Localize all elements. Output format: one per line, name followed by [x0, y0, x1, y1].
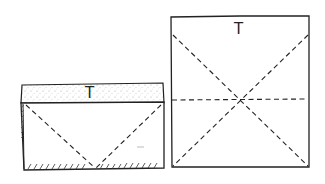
left-figure-label: T	[85, 86, 94, 101]
left-body	[21, 102, 164, 170]
right-figure	[171, 16, 309, 167]
right-figure-label: T	[234, 22, 243, 37]
folding-diagram: T T	[0, 0, 325, 184]
right-square	[171, 16, 309, 167]
diagram-canvas	[0, 0, 325, 184]
